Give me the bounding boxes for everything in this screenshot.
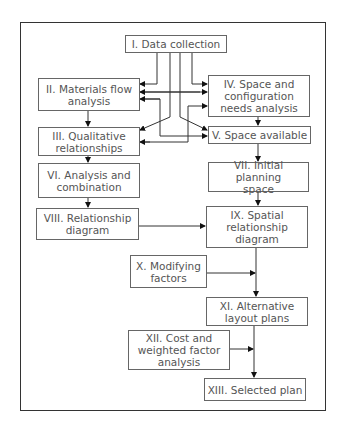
node-selected-plan: XIII. Selected plan [204,378,306,401]
node-initial-planning-space: VII. Initial planning space [208,162,309,192]
node-spatial-relationship-diagram: IX. Spatial relationship diagram [206,206,308,248]
node-space-available: V. Space available [208,126,311,144]
node-relationship-diagram: VIII. Relationship diagram [36,208,139,240]
node-data-collection: I. Data collection [125,35,227,53]
node-alternative-layout-plans: XI. Alternative layout plans [206,297,308,326]
node-qualitative-relationships: III. Qualitative relationships [38,127,140,156]
node-analysis-combination: VI. Analysis and combination [38,163,140,198]
node-cost-weighted-factor-analysis: XII. Cost and weighted factor analysis [128,330,230,370]
node-space-configuration-needs: IV. Space and configuration needs analys… [208,75,310,117]
node-materials-flow-analysis: II. Materials flow analysis [38,78,140,111]
node-modifying-factors: X. Modifying factors [130,255,207,288]
